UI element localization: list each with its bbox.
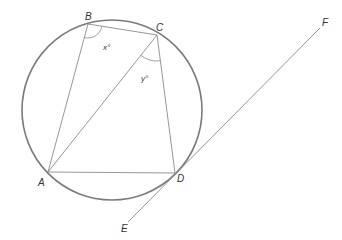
point-label-b: B	[85, 11, 92, 22]
chord-cd	[157, 35, 175, 173]
tangent-line-ef	[128, 28, 320, 222]
point-label-c: C	[156, 22, 164, 33]
circle-geometry-diagram: A B C D E F x° y°	[0, 0, 342, 240]
chord-ad	[48, 172, 175, 173]
point-label-f: F	[322, 17, 329, 28]
angle-arc-y	[141, 55, 161, 61]
point-label-d: D	[177, 173, 184, 184]
diagonal-ac	[48, 35, 157, 172]
angle-label-x: x°	[102, 43, 111, 52]
point-label-e: E	[121, 223, 128, 234]
chord-ab	[48, 24, 88, 172]
point-label-a: A	[37, 177, 45, 188]
angle-label-y: y°	[140, 74, 149, 83]
